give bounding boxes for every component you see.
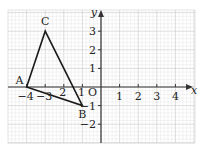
x-tick-label: −4 (17, 90, 33, 103)
coordinate-grid-figure: −4−3211234321−1−2OxyABC (0, 0, 204, 148)
x-axis-label: x (191, 84, 198, 97)
y-tick-label: 2 (89, 44, 96, 57)
y-tick-label: 1 (89, 62, 96, 75)
vertex-label-a: A (15, 74, 25, 87)
y-axis-label: y (90, 6, 98, 19)
vertex-label-b: B (78, 108, 86, 121)
x-tick-label: 1 (78, 86, 85, 99)
x-tick-label: 3 (153, 90, 160, 103)
x-tick-label: 2 (59, 86, 66, 99)
x-tick-label: 1 (116, 90, 123, 103)
x-tick-label: −3 (36, 90, 52, 103)
origin-label: O (88, 86, 97, 99)
vertex-label-c: C (41, 15, 49, 28)
y-tick-label: 3 (89, 25, 96, 38)
x-tick-label: 4 (172, 90, 179, 103)
x-tick-label: 2 (135, 90, 142, 103)
